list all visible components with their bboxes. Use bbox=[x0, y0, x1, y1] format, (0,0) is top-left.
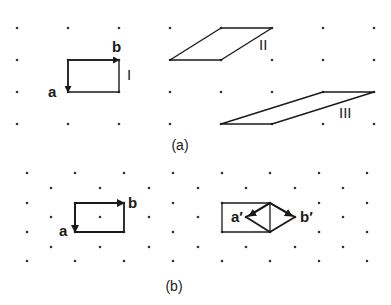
lattice-point bbox=[123, 172, 126, 175]
lattice-point bbox=[148, 187, 151, 190]
vector-label-a: a bbox=[59, 222, 68, 239]
lattice-point bbox=[169, 91, 172, 94]
lattice-point bbox=[322, 123, 325, 126]
lattice-point bbox=[67, 27, 70, 30]
lattice-point bbox=[221, 260, 224, 263]
unit-cell-i bbox=[68, 60, 119, 92]
lattice-point bbox=[366, 231, 369, 234]
lattice-point bbox=[16, 123, 19, 126]
lattice-point bbox=[322, 59, 325, 62]
lattice-point bbox=[169, 123, 172, 126]
lattice-point bbox=[342, 246, 345, 249]
panel-a: IIIIIIba (a) bbox=[16, 27, 376, 153]
lattice-point bbox=[99, 187, 102, 190]
lattice-point bbox=[221, 172, 224, 175]
lattice-point bbox=[294, 246, 297, 249]
lattice-point bbox=[16, 59, 19, 62]
lattice-point bbox=[148, 216, 151, 219]
lattice-point bbox=[172, 260, 175, 263]
lattice-point bbox=[74, 172, 77, 175]
cell-label-i: I bbox=[127, 66, 131, 83]
lattice-point bbox=[294, 187, 297, 190]
lattice-point bbox=[50, 216, 53, 219]
unit-cell-ii bbox=[170, 28, 272, 60]
lattice-point bbox=[67, 123, 70, 126]
lattice-point bbox=[197, 246, 200, 249]
lattice-point bbox=[169, 27, 172, 30]
lattice-unit-cell-diagram: IIIIIIba (a) baa′b′ (b) bbox=[0, 0, 391, 305]
basis-vectors-b bbox=[75, 203, 292, 232]
lattice-point bbox=[172, 172, 175, 175]
vector-label-a: a bbox=[48, 83, 57, 100]
basis-vectors-a bbox=[68, 60, 119, 92]
lattice-point bbox=[50, 246, 53, 249]
lattice-point bbox=[271, 91, 274, 94]
lattice-point bbox=[220, 91, 223, 94]
lattice-point bbox=[342, 187, 345, 190]
lattice-point bbox=[172, 202, 175, 205]
lattice-point bbox=[318, 260, 321, 263]
lattice-points-b bbox=[26, 172, 369, 263]
lattice-point bbox=[172, 231, 175, 234]
lattice-point bbox=[99, 246, 102, 249]
cell-label-ii: II bbox=[259, 36, 267, 53]
labels-a: IIIIIIba bbox=[48, 36, 352, 121]
vector-label-a-prime: a′ bbox=[231, 208, 243, 225]
lattice-point bbox=[318, 202, 321, 205]
vector-label-b-prime: b′ bbox=[300, 208, 313, 225]
lattice-point bbox=[342, 216, 345, 219]
lattice-point bbox=[366, 172, 369, 175]
lattice-point bbox=[271, 59, 274, 62]
lattice-point bbox=[373, 123, 376, 126]
lattice-point bbox=[197, 187, 200, 190]
lattice-point bbox=[373, 59, 376, 62]
lattice-point bbox=[245, 246, 248, 249]
panel-a-caption: (a) bbox=[171, 137, 188, 153]
lattice-point bbox=[99, 216, 102, 219]
vector-label-b: b bbox=[112, 38, 121, 55]
lattice-point bbox=[373, 27, 376, 30]
lattice-point bbox=[118, 27, 121, 30]
lattice-point bbox=[16, 91, 19, 94]
lattice-point bbox=[26, 202, 29, 205]
lattice-point bbox=[318, 172, 321, 175]
lattice-point bbox=[197, 216, 200, 219]
lattice-point bbox=[245, 187, 248, 190]
vector-label-b: b bbox=[128, 194, 137, 211]
lattice-point bbox=[74, 260, 77, 263]
lattice-point bbox=[269, 172, 272, 175]
lattice-point bbox=[118, 123, 121, 126]
lattice-point bbox=[26, 172, 29, 175]
lattice-point bbox=[148, 246, 151, 249]
lattice-point bbox=[366, 260, 369, 263]
lattice-point bbox=[318, 231, 321, 234]
lattice-point bbox=[123, 260, 126, 263]
lattice-point bbox=[26, 260, 29, 263]
panel-b-caption: (b) bbox=[165, 278, 182, 294]
cell-label-iii: III bbox=[339, 104, 352, 121]
lattice-point bbox=[322, 27, 325, 30]
lattice-point bbox=[16, 27, 19, 30]
panel-b: baa′b′ (b) bbox=[26, 172, 369, 294]
lattice-points-a bbox=[16, 27, 376, 126]
vector-b-prime-arrow bbox=[270, 203, 292, 216]
lattice-point bbox=[50, 187, 53, 190]
lattice-point bbox=[366, 202, 369, 205]
vector-a-prime-arrow bbox=[249, 203, 270, 216]
lattice-point bbox=[26, 231, 29, 234]
lattice-point bbox=[269, 260, 272, 263]
